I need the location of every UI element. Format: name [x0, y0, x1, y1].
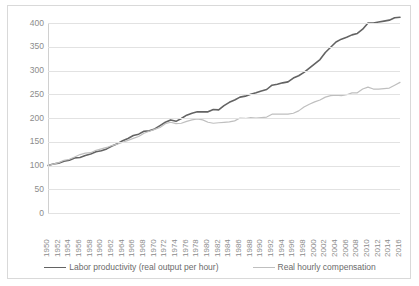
- y-axis-tick-label: 150: [14, 137, 44, 146]
- y-axis: 400350300250200150100500: [10, 23, 44, 213]
- y-axis-tick-label: 50: [14, 185, 44, 194]
- x-axis-tick-label: 1968: [139, 239, 147, 257]
- chart-container: 400350300250200150100500 195019521954195…: [7, 5, 411, 279]
- gridline: [48, 94, 400, 95]
- legend-item-labor-productivity[interactable]: Labor productivity (real output per hour…: [44, 262, 218, 272]
- x-axis-tick-label: 2016: [395, 239, 403, 257]
- gridline: [48, 23, 400, 24]
- gridline: [48, 142, 400, 143]
- x-axis-tick-label: 1988: [246, 239, 254, 257]
- x-axis-tick-label: 1970: [150, 239, 158, 257]
- x-axis-tick-label: 1996: [288, 239, 296, 257]
- x-axis-tick-label: 2006: [342, 239, 350, 257]
- x-axis-tick-label: 1976: [182, 239, 190, 257]
- gridline: [48, 166, 400, 167]
- x-axis-tick-label: 1954: [64, 239, 72, 257]
- series-line: [48, 17, 400, 165]
- gridline: [48, 47, 400, 48]
- legend-swatch-icon: [44, 267, 66, 268]
- gridline: [48, 213, 400, 214]
- plot-area: [48, 23, 400, 213]
- x-axis-tick-label: 1950: [43, 239, 51, 257]
- x-axis-tick-label: 1960: [96, 239, 104, 257]
- gridline: [48, 189, 400, 190]
- x-axis-tick-label: 2010: [363, 239, 371, 257]
- x-axis-tick-label: 1964: [118, 239, 126, 257]
- gridline: [48, 118, 400, 119]
- x-axis-tick-label: 1962: [107, 239, 115, 257]
- x-axis: 1950195219541956195819601962196419661968…: [48, 215, 400, 257]
- x-axis-tick-label: 1980: [203, 239, 211, 257]
- y-axis-tick-label: 250: [14, 90, 44, 99]
- x-axis-tick-label: 1978: [192, 239, 200, 257]
- x-axis-tick-label: 1990: [256, 239, 264, 257]
- x-axis-tick-label: 2014: [384, 239, 392, 257]
- y-axis-tick-label: 100: [14, 161, 44, 170]
- y-axis-tick-label: 300: [14, 66, 44, 75]
- x-axis-tick-label: 1992: [267, 239, 275, 257]
- y-axis-tick-label: 350: [14, 42, 44, 51]
- legend-swatch-icon: [253, 267, 275, 268]
- y-axis-tick-label: 0: [14, 209, 44, 218]
- x-axis-tick-label: 2000: [310, 239, 318, 257]
- legend-label: Labor productivity (real output per hour…: [69, 262, 218, 272]
- x-axis-tick-label: 1982: [214, 239, 222, 257]
- x-axis-tick-label: 1998: [299, 239, 307, 257]
- x-axis-tick-label: 2004: [331, 239, 339, 257]
- y-axis-tick-label: 200: [14, 114, 44, 123]
- legend-label: Real hourly compensation: [278, 262, 376, 272]
- chart-legend: Labor productivity (real output per hour…: [8, 258, 412, 276]
- y-axis-tick-label: 400: [14, 19, 44, 28]
- gridline: [48, 71, 400, 72]
- x-axis-tick-label: 1956: [75, 239, 83, 257]
- x-axis-tick-label: 1986: [235, 239, 243, 257]
- x-axis-tick-label: 2002: [320, 239, 328, 257]
- x-axis-tick-label: 1966: [128, 239, 136, 257]
- x-axis-tick-label: 1974: [171, 239, 179, 257]
- legend-item-real-hourly-compensation[interactable]: Real hourly compensation: [253, 262, 376, 272]
- x-axis-tick-label: 1952: [54, 239, 62, 257]
- x-axis-tick-label: 2008: [352, 239, 360, 257]
- x-axis-tick-label: 1984: [224, 239, 232, 257]
- x-axis-tick-label: 1972: [160, 239, 168, 257]
- x-axis-tick-label: 1958: [86, 239, 94, 257]
- x-axis-tick-label: 2012: [374, 239, 382, 257]
- x-axis-tick-label: 1994: [278, 239, 286, 257]
